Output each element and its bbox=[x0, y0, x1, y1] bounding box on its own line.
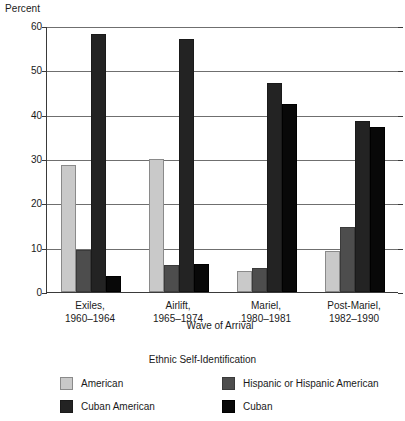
y-axis-tick bbox=[42, 293, 47, 294]
legend-item-label: Cuban American bbox=[81, 401, 155, 412]
bar bbox=[164, 265, 179, 292]
bar bbox=[325, 251, 340, 292]
legend-item-label: Cuban bbox=[243, 401, 272, 412]
bar bbox=[355, 121, 370, 292]
light-gray-swatch bbox=[60, 377, 73, 390]
x-axis-category-label-line: 1960–1964 bbox=[46, 312, 134, 325]
bar bbox=[106, 276, 121, 292]
legend-item: American bbox=[60, 377, 123, 390]
bar bbox=[76, 250, 91, 292]
bar-group bbox=[311, 27, 399, 292]
bar bbox=[282, 104, 297, 292]
bar bbox=[267, 83, 282, 292]
legend-item: Cuban bbox=[222, 400, 272, 413]
legend-item-label: Hispanic or Hispanic American bbox=[243, 378, 379, 389]
y-axis-tick-label: 60 bbox=[18, 21, 42, 32]
y-axis-tick-label: 50 bbox=[18, 65, 42, 76]
black-swatch bbox=[222, 400, 235, 413]
legend-item: Cuban American bbox=[60, 400, 155, 413]
x-axis-category-label-line: Post-Mariel, bbox=[310, 299, 398, 312]
x-axis-category-label: Exiles,1960–1964 bbox=[46, 299, 134, 325]
y-axis-tick-label: 30 bbox=[18, 154, 42, 165]
x-axis-category-label: Post-Mariel,1982–1990 bbox=[310, 299, 398, 325]
bar-group bbox=[135, 27, 223, 292]
legend-item-label: American bbox=[81, 378, 123, 389]
bar bbox=[237, 271, 252, 292]
bar bbox=[252, 268, 267, 292]
y-axis-tick-right bbox=[398, 293, 403, 294]
y-axis-tick-label: 10 bbox=[18, 243, 42, 254]
y-axis-title: Percent bbox=[5, 3, 40, 14]
y-axis-tick-label: 20 bbox=[18, 198, 42, 209]
bar bbox=[91, 34, 106, 292]
bar-group bbox=[223, 27, 311, 292]
bar-chart: Percent 0102030405060 Exiles,1960–1964Ai… bbox=[0, 0, 405, 421]
bar bbox=[194, 264, 209, 292]
x-axis-category-label-line: Exiles, bbox=[46, 299, 134, 312]
bar bbox=[340, 227, 355, 292]
dark-gray-swatch bbox=[222, 377, 235, 390]
x-axis-category-label-line: 1982–1990 bbox=[310, 312, 398, 325]
y-axis-tick-label: 0 bbox=[18, 287, 42, 298]
very-dark-swatch bbox=[60, 400, 73, 413]
x-axis-category-label-line: Airlift, bbox=[134, 299, 222, 312]
x-axis-category-label-line: Mariel, bbox=[222, 299, 310, 312]
x-axis-title: Wave of Arrival bbox=[160, 320, 280, 331]
bar bbox=[149, 159, 164, 292]
bar-group bbox=[47, 27, 135, 292]
legend-title: Ethnic Self-Identification bbox=[0, 354, 405, 365]
plot-area bbox=[46, 27, 398, 293]
y-axis-tick-label: 40 bbox=[18, 110, 42, 121]
bar bbox=[370, 127, 385, 292]
bar bbox=[179, 39, 194, 292]
legend-item: Hispanic or Hispanic American bbox=[222, 377, 379, 390]
bar bbox=[61, 165, 76, 292]
